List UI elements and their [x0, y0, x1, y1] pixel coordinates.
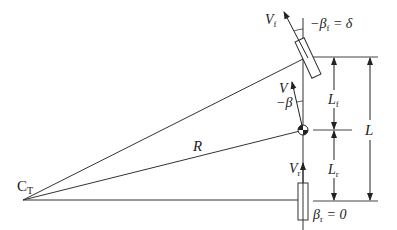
cg-velocity-label: V [279, 81, 289, 96]
cg-velocity-arrow [292, 82, 303, 130]
radius-line-front [23, 57, 307, 200]
cg-slip-angle-arc [297, 101, 303, 102]
front-steer-angle-arc [294, 29, 303, 31]
front-velocity-label: Vf [265, 12, 277, 29]
bicycle-model-diagram: CT R Vf −βf = δ V −β Vr βr = 0 Lf Lr L [0, 0, 397, 230]
radius-line-cg [23, 131, 300, 200]
rear-angle-label: βr = 0 [312, 207, 346, 224]
center-of-gravity-icon [298, 125, 308, 135]
cg-slip-angle-label: −β [276, 95, 292, 110]
rear-length-label: Lr [327, 162, 339, 179]
center-of-turn-label: CT [17, 178, 33, 196]
front-velocity-arrow [284, 12, 308, 58]
radius-label: R [192, 138, 202, 154]
rear-velocity-label: Vr [289, 161, 301, 178]
wheelbase-label: L [364, 122, 373, 138]
front-length-label: Lf [327, 92, 339, 109]
steer-angle-label: −βf = δ [310, 16, 353, 33]
